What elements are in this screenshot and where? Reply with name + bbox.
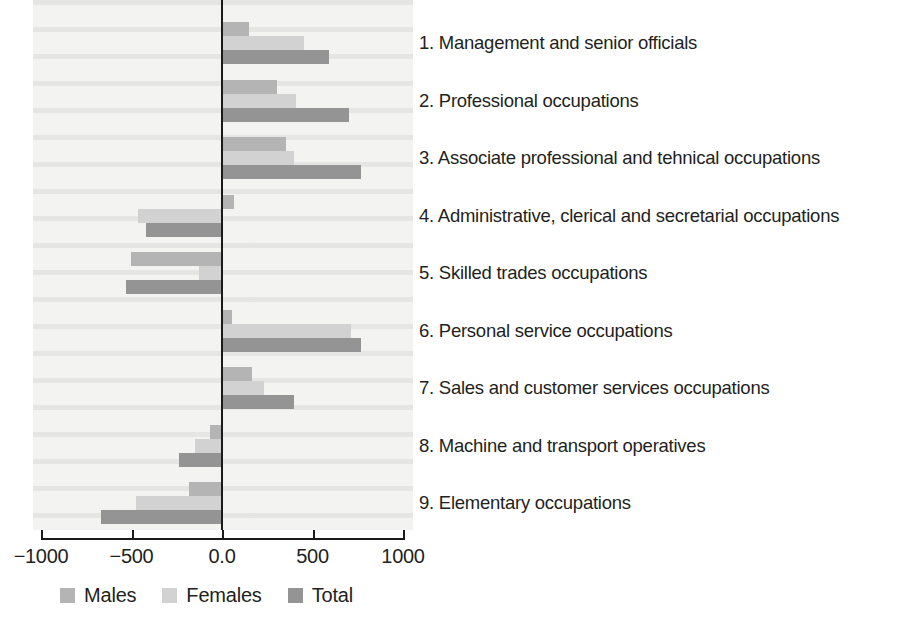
bar-8-males	[210, 425, 221, 439]
x-tick-1	[132, 530, 134, 540]
legend-label: Males	[84, 584, 136, 606]
category-key-list: 1. Management and senior officials2. Pro…	[419, 0, 911, 530]
bar-2-females	[221, 94, 296, 108]
bar-5-total	[126, 280, 221, 294]
bar-9-total	[101, 510, 221, 524]
bar-6-females	[221, 324, 351, 338]
x-tick-2	[222, 530, 224, 540]
bar-6-total	[221, 338, 361, 352]
x-tick-0	[41, 530, 43, 540]
x-tick-3	[313, 530, 315, 540]
bar-1-total	[221, 50, 329, 64]
bar-9-females	[136, 496, 221, 510]
x-tick-label-3: 500	[270, 544, 356, 568]
category-key-item-2: 2. Professional occupations	[419, 90, 639, 112]
zero-axis-line	[221, 0, 223, 530]
bar-7-total	[221, 395, 294, 409]
legend-item-total[interactable]: Total	[288, 584, 353, 606]
x-tick-label-4: 1000	[360, 544, 446, 568]
bar-3-males	[221, 137, 286, 151]
bar-9-males	[189, 482, 221, 496]
bar-2-males	[221, 80, 277, 94]
bar-3-females	[221, 151, 294, 165]
bar-5-females	[199, 266, 221, 280]
legend-item-females[interactable]: Females	[162, 584, 261, 606]
x-tick-4	[403, 530, 405, 540]
bar-7-females	[221, 381, 264, 395]
bar-2-total	[221, 108, 349, 122]
legend-label: Females	[186, 584, 261, 606]
bar-4-females	[138, 209, 221, 223]
legend-item-males[interactable]: Males	[60, 584, 136, 606]
plot-area	[33, 0, 413, 530]
x-axis-tick-labels: −1000−5000.05001000	[0, 544, 440, 570]
bar-1-males	[221, 22, 249, 36]
bar-8-total	[179, 453, 221, 467]
x-tick-label-1: −500	[89, 544, 175, 568]
chart-legend: MalesFemalesTotal	[60, 582, 353, 608]
legend-swatch-icon-females	[162, 588, 177, 603]
bar-chart-figure: −1000−5000.05001000 MalesFemalesTotal 1.…	[0, 0, 911, 633]
bar-3-total	[221, 165, 361, 179]
bar-4-total	[146, 223, 221, 237]
category-key-item-9: 9. Elementary occupations	[419, 492, 631, 514]
legend-label: Total	[312, 584, 353, 606]
category-key-item-5: 5. Skilled trades occupations	[419, 262, 647, 284]
bar-5-males	[131, 252, 221, 266]
x-tick-label-0: −1000	[0, 544, 84, 568]
x-tick-label-2: 0.0	[179, 544, 265, 568]
bar-7-males	[221, 367, 252, 381]
category-key-item-6: 6. Personal service occupations	[419, 320, 672, 342]
bar-1-females	[221, 36, 304, 50]
x-axis	[33, 530, 413, 542]
category-key-item-8: 8. Machine and transport operatives	[419, 435, 705, 457]
legend-swatch-icon-total	[288, 588, 303, 603]
bar-8-females	[195, 439, 221, 453]
category-key-item-4: 4. Administrative, clerical and secretar…	[419, 205, 839, 227]
legend-swatch-icon-males	[60, 588, 75, 603]
category-key-item-1: 1. Management and senior officials	[419, 32, 697, 54]
category-key-item-3: 3. Associate professional and tehnical o…	[419, 147, 820, 169]
category-key-item-7: 7. Sales and customer services occupatio…	[419, 377, 769, 399]
